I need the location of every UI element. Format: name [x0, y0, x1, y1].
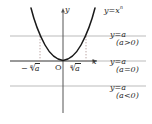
- tick-label-negative-nth-root: −n√a: [21, 64, 42, 73]
- math-figure: y x O −n√a n√a y=xn y=a (a>0) y=a (a=0) …: [0, 0, 152, 124]
- annotation-line-a-positive: y=a (a>0): [110, 31, 139, 48]
- annotation-condition: (a<0): [110, 92, 139, 100]
- curve-equation-label: y=xn: [104, 5, 123, 15]
- radicand: a: [35, 63, 41, 73]
- origin-label: O: [55, 64, 62, 72]
- curve-equation-base: y=x: [104, 6, 120, 15]
- radical-expression: n√a: [68, 64, 83, 73]
- y-axis-label: y: [65, 6, 70, 14]
- radicand: a: [75, 63, 81, 73]
- x-axis-label: x: [92, 58, 97, 66]
- curve-equation-exponent: n: [120, 4, 123, 10]
- annotation-condition: (a=0): [110, 66, 139, 74]
- minus-sign: −: [21, 64, 28, 73]
- annotation-line-a-zero: y=a (a=0): [110, 58, 139, 75]
- tick-label-positive-nth-root: n√a: [68, 64, 83, 73]
- annotation-line-a-negative: y=a (a<0): [110, 84, 139, 101]
- annotation-condition: (a>0): [110, 39, 139, 47]
- radical-expression: n√a: [28, 64, 43, 73]
